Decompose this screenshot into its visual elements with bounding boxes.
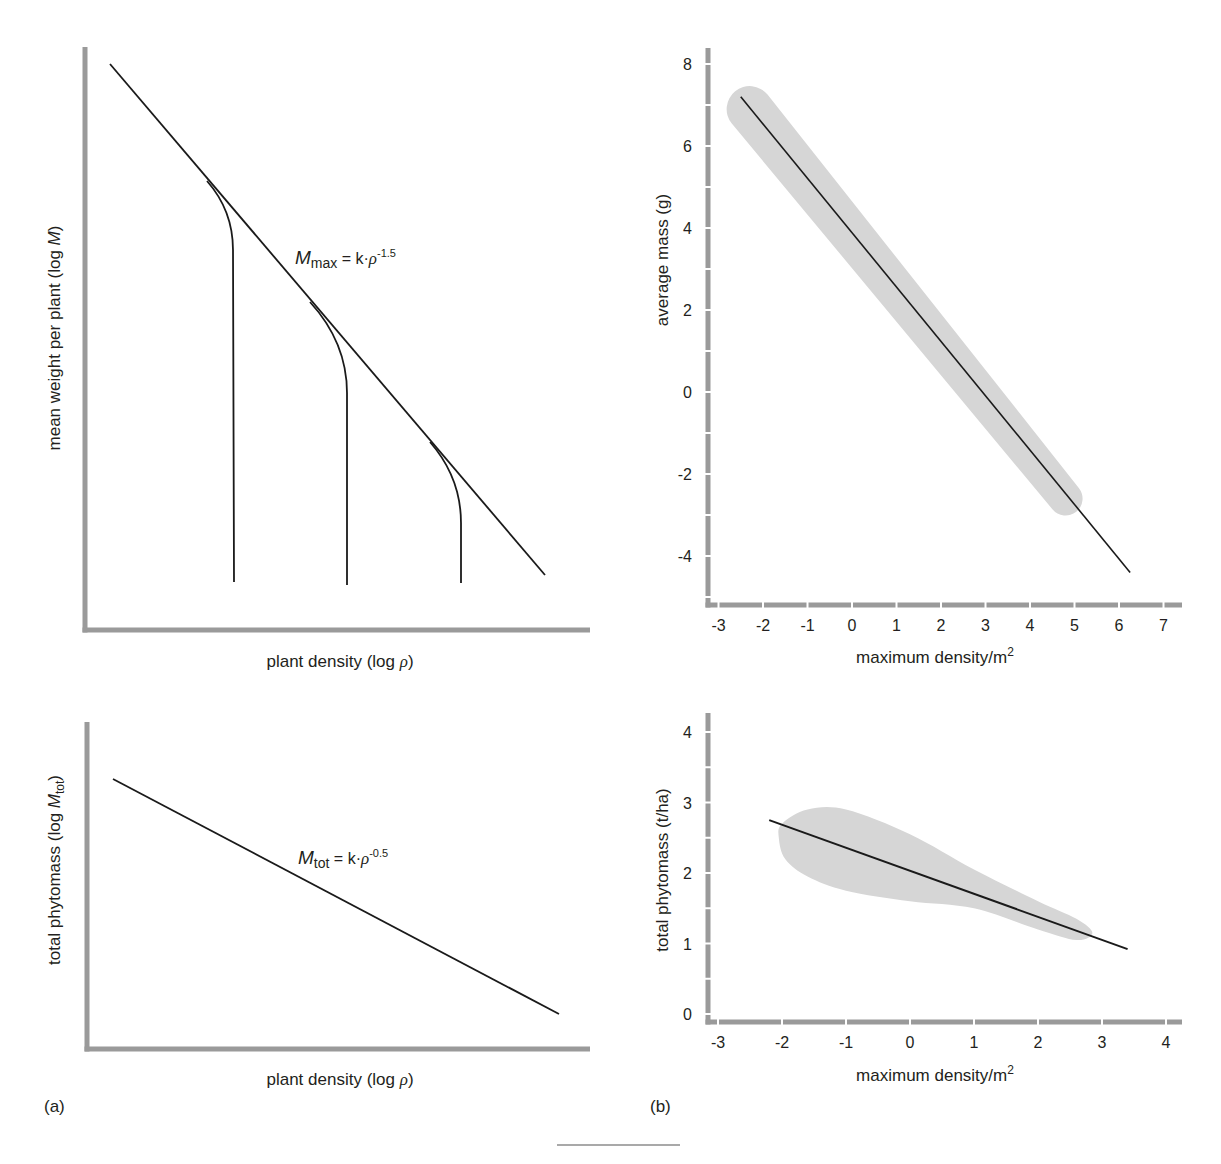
- x-tick-label: -3: [711, 617, 725, 634]
- x-tick-gap: [718, 602, 720, 608]
- y-axis-label: mean weight per plant (log M): [45, 226, 64, 451]
- x-tick-gap: [845, 1019, 847, 1025]
- panel-label-b: (b): [650, 1097, 671, 1116]
- y-tick-label: 2: [683, 865, 692, 882]
- stand-trajectory-1: [207, 181, 234, 582]
- x-tick-gap: [973, 1019, 975, 1025]
- x-axis-label: maximum density/m2: [856, 645, 1014, 667]
- y-tick-gap: [705, 432, 711, 434]
- stand-trajectory-3: [430, 442, 461, 583]
- x-tick-gap: [1037, 1019, 1039, 1025]
- x-tick-gap: [896, 602, 898, 608]
- x-tick-gap: [1118, 602, 1120, 608]
- x-tick-gap: [1163, 602, 1165, 608]
- x-tick-label: -1: [800, 617, 814, 634]
- x-tick-label: -2: [756, 617, 770, 634]
- x-tick-label: 4: [1162, 1034, 1171, 1051]
- y-tick-gap: [705, 978, 711, 980]
- x-tick-gap: [1165, 1019, 1167, 1025]
- y-tick-gap: [705, 907, 711, 909]
- y-axis: [706, 48, 711, 608]
- x-axis-label: plant density (log ρ): [266, 652, 413, 671]
- y-tick-label: 0: [683, 384, 692, 401]
- y-axis-label: average mass (g): [653, 194, 672, 326]
- y-tick-gap: [705, 309, 711, 311]
- stand-trajectory-2: [310, 302, 347, 585]
- y-axis-label: total phytomass (log Mtot): [45, 775, 67, 965]
- chart-a-top-self-thinning: Mmax = k·ρ-1.5plant density (log ρ)mean …: [45, 47, 590, 671]
- x-tick-gap: [1029, 602, 1031, 608]
- y-tick-gap: [705, 104, 711, 106]
- y-tick-gap: [705, 391, 711, 393]
- x-tick-gap: [762, 602, 764, 608]
- chart-b-top-average-mass: -3-2-101234567-4-202468maximum density/m…: [653, 48, 1182, 667]
- x-tick-label: -2: [775, 1034, 789, 1051]
- x-tick-gap: [985, 602, 987, 608]
- x-tick-gap: [1101, 1019, 1103, 1025]
- x-axis-label: plant density (log ρ): [266, 1070, 413, 1089]
- x-tick-label: 6: [1115, 617, 1124, 634]
- y-tick-label: 2: [683, 302, 692, 319]
- x-tick-label: 0: [848, 617, 857, 634]
- x-tick-label: 7: [1159, 617, 1168, 634]
- y-tick-label: 4: [683, 724, 692, 741]
- y-tick-gap: [705, 227, 711, 229]
- x-tick-label: 5: [1070, 617, 1079, 634]
- y-axis: [85, 722, 90, 1052]
- x-axis: [85, 1047, 591, 1052]
- x-tick-label: 2: [937, 617, 946, 634]
- x-tick-gap: [781, 1019, 783, 1025]
- y-tick-label: 8: [683, 56, 692, 73]
- y-tick-label: 6: [683, 138, 692, 155]
- y-tick-gap: [705, 766, 711, 768]
- y-tick-gap: [705, 731, 711, 733]
- x-axis: [706, 1020, 1183, 1025]
- y-tick-gap: [705, 837, 711, 839]
- x-tick-gap: [807, 602, 809, 608]
- y-tick-gap: [705, 350, 711, 352]
- y-tick-gap: [705, 514, 711, 516]
- x-axis: [706, 603, 1183, 608]
- x-tick-gap: [909, 1019, 911, 1025]
- y-tick-label: -4: [678, 548, 692, 565]
- x-tick-label: 0: [906, 1034, 915, 1051]
- x-axis-label: maximum density/m2: [856, 1063, 1014, 1085]
- y-tick-gap: [705, 145, 711, 147]
- regression-line: [741, 97, 1130, 573]
- x-tick-gap: [940, 602, 942, 608]
- y-tick-label: 1: [683, 936, 692, 953]
- figure-canvas: Mmax = k·ρ-1.5plant density (log ρ)mean …: [0, 0, 1221, 1164]
- y-tick-gap: [705, 63, 711, 65]
- y-tick-gap: [705, 268, 711, 270]
- y-tick-gap: [705, 1013, 711, 1015]
- x-tick-gap: [717, 1019, 719, 1025]
- chart-b-bottom-total-phytomass: -3-2-10123401234maximum density/m2total …: [653, 713, 1182, 1085]
- regression-line: [769, 820, 1127, 949]
- y-tick-label: 3: [683, 795, 692, 812]
- x-tick-label: 1: [892, 617, 901, 634]
- self-thinning-line: [110, 64, 545, 575]
- x-tick-gap: [851, 602, 853, 608]
- formula-m-max: Mmax = k·ρ-1.5: [295, 247, 396, 271]
- phytomass-line: [113, 779, 559, 1014]
- y-axis-label: total phytomass (t/ha): [653, 788, 672, 951]
- y-tick-gap: [705, 555, 711, 557]
- x-tick-label: 3: [1098, 1034, 1107, 1051]
- y-tick-label: 4: [683, 220, 692, 237]
- x-tick-label: 3: [981, 617, 990, 634]
- x-tick-label: 2: [1034, 1034, 1043, 1051]
- x-tick-label: 4: [1026, 617, 1035, 634]
- x-tick-label: -3: [711, 1034, 725, 1051]
- y-tick-label: 0: [683, 1006, 692, 1023]
- y-tick-label: -2: [678, 466, 692, 483]
- y-tick-gap: [705, 802, 711, 804]
- data-envelope-band: [727, 86, 1083, 515]
- y-axis: [83, 47, 88, 633]
- y-tick-gap: [705, 872, 711, 874]
- x-tick-label: -1: [839, 1034, 853, 1051]
- y-tick-gap: [705, 943, 711, 945]
- chart-a-bottom-total-phytomass: Mtot = k·ρ-0.5plant density (log ρ)total…: [45, 722, 590, 1089]
- x-axis: [83, 628, 591, 633]
- x-tick-label: 1: [970, 1034, 979, 1051]
- panel-label-a: (a): [44, 1097, 65, 1116]
